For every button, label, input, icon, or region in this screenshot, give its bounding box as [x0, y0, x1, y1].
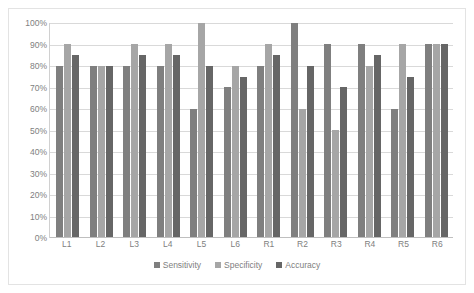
bar[interactable]: [441, 44, 448, 237]
y-axis-tick-label: 90%: [11, 40, 47, 49]
bar[interactable]: [340, 87, 347, 237]
bar[interactable]: [291, 23, 298, 237]
y-axis-tick-label: 10%: [11, 212, 47, 221]
bar[interactable]: [64, 44, 71, 237]
x-axis-tick-label: R4: [353, 240, 387, 249]
bar[interactable]: [425, 44, 432, 237]
bar-group: [152, 23, 186, 237]
y-axis-tick-label: 50%: [11, 126, 47, 135]
x-axis-tick-label: L6: [218, 240, 252, 249]
bar[interactable]: [106, 66, 113, 237]
bar[interactable]: [307, 66, 314, 237]
y-axis-tick-label: 30%: [11, 169, 47, 178]
legend-item[interactable]: Specificity: [215, 261, 262, 270]
bar[interactable]: [324, 44, 331, 237]
bar[interactable]: [90, 66, 97, 237]
chart-figure: 0%10%20%30%40%50%60%70%80%90%100% L1L2L3…: [0, 0, 474, 293]
bar-group: [420, 23, 454, 237]
bar[interactable]: [407, 77, 414, 238]
bar-group: [85, 23, 119, 237]
x-axis-tick-label: L4: [151, 240, 185, 249]
bar[interactable]: [56, 66, 63, 237]
bar-group: [185, 23, 219, 237]
y-axis-tick-label: 60%: [11, 105, 47, 114]
bar-group: [353, 23, 387, 237]
legend-item[interactable]: Accuracy: [276, 261, 320, 270]
chart-legend: SensitivitySpecificityAccuracy: [9, 261, 465, 270]
bar[interactable]: [98, 66, 105, 237]
x-axis-tick-label: L1: [50, 240, 84, 249]
bar[interactable]: [232, 66, 239, 237]
y-axis-tick-label: 80%: [11, 62, 47, 71]
x-axis-line: [50, 237, 453, 238]
bar[interactable]: [157, 66, 164, 237]
bar[interactable]: [332, 130, 339, 237]
bar[interactable]: [190, 109, 197, 237]
legend-swatch-icon: [215, 262, 221, 268]
bar[interactable]: [399, 44, 406, 237]
bar[interactable]: [173, 55, 180, 237]
bar[interactable]: [198, 23, 205, 237]
bar[interactable]: [358, 44, 365, 237]
bar[interactable]: [374, 55, 381, 237]
y-axis-tick-label: 0%: [11, 234, 47, 243]
bar-groups: [51, 23, 453, 237]
bar[interactable]: [165, 44, 172, 237]
legend-item[interactable]: Sensitivity: [154, 261, 201, 270]
bar-group: [319, 23, 353, 237]
bar[interactable]: [391, 109, 398, 237]
bar-group: [51, 23, 85, 237]
plot-wrapper: [49, 23, 453, 238]
bar[interactable]: [72, 55, 79, 237]
plot-area: [49, 23, 453, 238]
x-axis-tick-label: R6: [420, 240, 454, 249]
y-axis-tick-label: 100%: [11, 19, 47, 28]
legend-swatch-icon: [276, 262, 282, 268]
bar-group: [219, 23, 253, 237]
chart-plot-frame: 0%10%20%30%40%50%60%70%80%90%100% L1L2L3…: [8, 8, 466, 285]
bar[interactable]: [299, 109, 306, 237]
bar-group: [118, 23, 152, 237]
bar[interactable]: [139, 55, 146, 237]
bar[interactable]: [206, 66, 213, 237]
x-axis-tick-label: L5: [185, 240, 219, 249]
legend-label: Accuracy: [285, 261, 320, 270]
bar-group: [286, 23, 320, 237]
bar[interactable]: [366, 66, 373, 237]
x-axis-tick-label: L2: [84, 240, 118, 249]
x-axis-tick-label: R1: [252, 240, 286, 249]
x-axis-tick-labels: L1L2L3L4L5L6R1R2R3R4R5R6: [50, 240, 454, 249]
legend-label: Sensitivity: [163, 261, 201, 270]
bar[interactable]: [273, 55, 280, 237]
bar[interactable]: [257, 66, 264, 237]
x-axis-tick-label: R5: [387, 240, 421, 249]
bar-group: [252, 23, 286, 237]
bar[interactable]: [224, 87, 231, 237]
bar[interactable]: [265, 44, 272, 237]
y-axis-tick-labels: 0%10%20%30%40%50%60%70%80%90%100%: [9, 23, 47, 238]
x-axis-tick-label: R2: [286, 240, 320, 249]
y-axis-tick-label: 70%: [11, 83, 47, 92]
y-axis-tick-label: 20%: [11, 191, 47, 200]
x-axis-tick-label: R3: [319, 240, 353, 249]
y-axis-tick-label: 40%: [11, 148, 47, 157]
bar[interactable]: [240, 77, 247, 238]
legend-swatch-icon: [154, 262, 160, 268]
bar-group: [386, 23, 420, 237]
x-axis-tick-label: L3: [117, 240, 151, 249]
legend-label: Specificity: [224, 261, 262, 270]
bar[interactable]: [123, 66, 130, 237]
bar[interactable]: [433, 44, 440, 237]
bar[interactable]: [131, 44, 138, 237]
